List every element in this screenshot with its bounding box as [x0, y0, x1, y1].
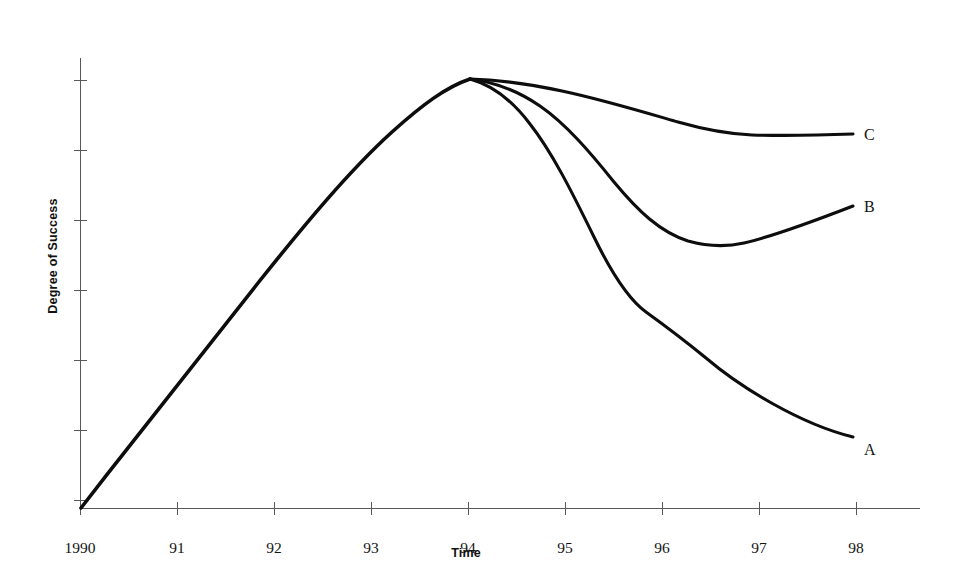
- chart-container: 1990 91 92 93 94 95 96 97 98 Time Degree…: [0, 0, 966, 587]
- x-tick-label-92: 92: [266, 539, 282, 556]
- series-a-path: [470, 79, 853, 437]
- x-tick-label-93: 93: [363, 539, 379, 556]
- shared-rising-segment: [81, 79, 470, 508]
- x-tick-label-1990: 1990: [65, 539, 96, 556]
- x-tick-label-98: 98: [848, 539, 864, 556]
- x-axis-title: Time: [451, 546, 481, 560]
- x-tick-label-91: 91: [169, 539, 185, 556]
- y-axis-title: Degree of Success: [46, 198, 60, 313]
- series-b-path: [470, 79, 853, 245]
- x-tick-label-95: 95: [557, 539, 573, 556]
- x-tick-label-97: 97: [751, 539, 767, 556]
- series-label-b: B: [864, 198, 875, 215]
- series-label-a: A: [864, 441, 876, 458]
- axes-group: [81, 58, 921, 509]
- line-chart: 1990 91 92 93 94 95 96 97 98 Time Degree…: [0, 0, 966, 587]
- series-c-path: [470, 79, 853, 135]
- x-tick-label-96: 96: [654, 539, 670, 556]
- series-label-c: C: [864, 126, 875, 143]
